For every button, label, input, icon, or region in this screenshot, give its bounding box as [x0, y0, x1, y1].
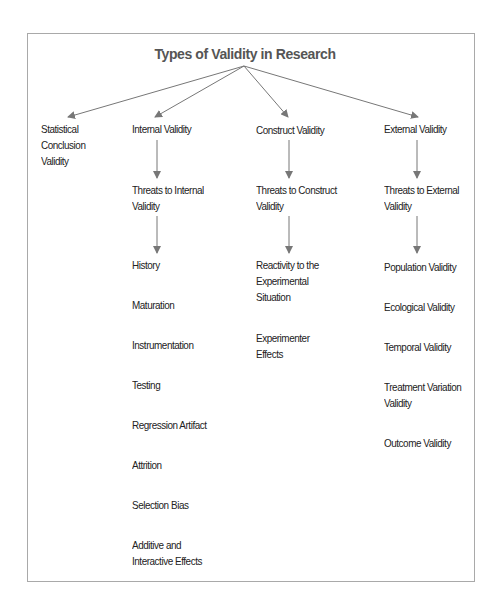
heading-construct-validity: Construct Validity — [256, 122, 324, 138]
heading-internal-validity: Internal Validity — [132, 121, 191, 137]
threats-internal-validity: Threats to Internal Validity — [132, 182, 204, 214]
item-instrumentation: Instrumentation — [132, 337, 193, 353]
item-experimenter-effects: Experimenter Effects — [256, 330, 309, 362]
item-selection-bias: Selection Bias — [132, 497, 188, 513]
threats-external-validity: Threats to External Validity — [384, 182, 459, 214]
heading-external-validity: External Validity — [384, 121, 447, 137]
item-treatment-variation-validity: Treatment Variation Validity — [384, 379, 461, 411]
item-additive-interactive-effects: Additive and Interactive Effects — [132, 537, 202, 569]
arrow-to-internal — [155, 66, 244, 117]
item-history: History — [132, 257, 160, 273]
item-ecological-validity: Ecological Validity — [384, 299, 455, 315]
heading-statistical-conclusion-validity: Statistical Conclusion Validity — [41, 121, 85, 169]
arrow-to-statistical — [68, 66, 244, 117]
threats-construct-validity: Threats to Construct Validity — [256, 182, 337, 214]
item-temporal-validity: Temporal Validity — [384, 339, 451, 355]
arrow-to-construct — [244, 66, 288, 117]
arrow-to-external — [244, 66, 418, 117]
item-attrition: Attrition — [132, 457, 162, 473]
item-reactivity-experimental-situation: Reactivity to the Experimental Situation — [256, 257, 319, 305]
item-population-validity: Population Validity — [384, 259, 456, 275]
item-regression-artifact: Regression Artifact — [132, 417, 207, 433]
item-testing: Testing — [132, 377, 160, 393]
item-maturation: Maturation — [132, 297, 174, 313]
item-outcome-validity: Outcome Validity — [384, 435, 451, 451]
